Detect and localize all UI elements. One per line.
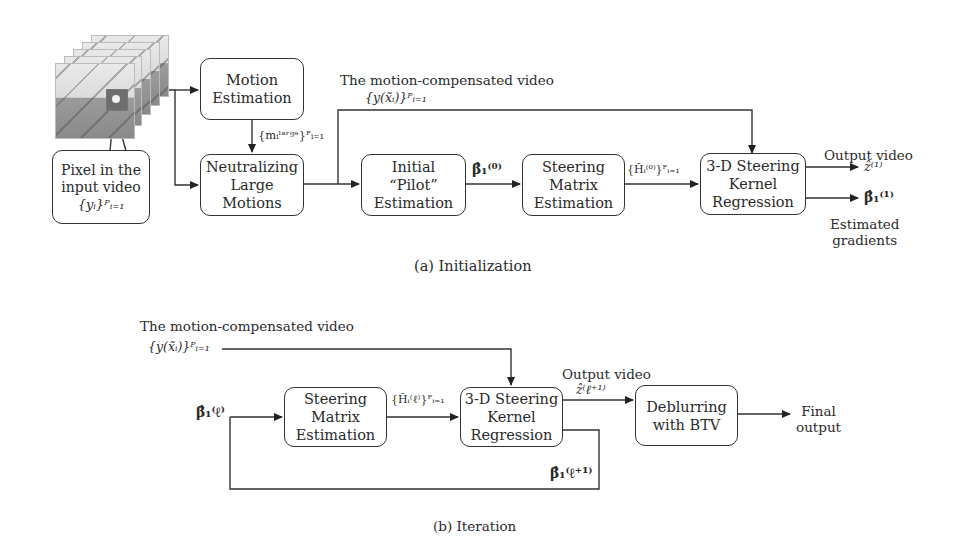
label-line: Estimated bbox=[830, 216, 899, 232]
block-label: Steering bbox=[304, 390, 367, 408]
motion-compensated-math: {y(x̃ᵢ)}ᴾᵢ₌₁ bbox=[365, 91, 427, 105]
block-label: Initial bbox=[392, 158, 435, 176]
label-line: Final bbox=[796, 403, 841, 419]
block-label: Kernel bbox=[729, 175, 778, 193]
block-label: with BTV bbox=[653, 416, 721, 434]
caption-iteration: (b) Iteration bbox=[433, 518, 516, 534]
block-label: Deblurring bbox=[646, 398, 727, 416]
block-label: Regression bbox=[471, 426, 553, 444]
block-label: Estimation bbox=[374, 194, 453, 212]
block-label: “Pilot” bbox=[389, 176, 437, 194]
beta-l-label: β̂₁⁽ℓ⁾ bbox=[196, 405, 225, 419]
callout-line: input video bbox=[53, 179, 149, 196]
steering-matrices-0-label: {H̃ᵢ⁽⁰⁾}ᴾᵢ₌₁ bbox=[627, 163, 680, 177]
callout-line: Pixel in the bbox=[53, 162, 149, 179]
block-label: Steering bbox=[542, 158, 605, 176]
beta-l1-label: β̂₁⁽ℓ⁺¹⁾ bbox=[550, 466, 593, 480]
block-label: Motion bbox=[226, 71, 278, 89]
block-label: Matrix bbox=[549, 176, 598, 194]
block-label: Motions bbox=[222, 194, 282, 212]
steering-matrices-l-label: {H̃ᵢ⁽ℓ⁾}ᴾᵢ₌₁ bbox=[391, 393, 445, 407]
z-1-label: ẑ⁽¹⁾ bbox=[864, 160, 882, 174]
block-label: Regression bbox=[712, 193, 794, 211]
block-label: 3-D Steering bbox=[706, 157, 799, 175]
block-label: Estimation bbox=[534, 194, 613, 212]
block-label: Estimation bbox=[212, 89, 291, 107]
block-label: Kernel bbox=[487, 408, 536, 426]
block-label: Neutralizing bbox=[206, 158, 298, 176]
neutralizing-large-motions-block: Neutralizing Large Motions bbox=[200, 154, 304, 216]
block-label: 3-D Steering bbox=[465, 390, 558, 408]
steering-matrix-estimation-block-b: Steering Matrix Estimation bbox=[284, 387, 387, 447]
steering-matrix-estimation-block: Steering Matrix Estimation bbox=[522, 154, 625, 216]
estimated-gradients-label: Estimated gradients bbox=[830, 216, 899, 248]
motion-estimation-block: Motion Estimation bbox=[200, 58, 304, 120]
block-label: Large bbox=[230, 176, 273, 194]
pixel-dot-icon bbox=[112, 95, 120, 103]
deblurring-btv-block: Deblurring with BTV bbox=[635, 385, 738, 446]
beta-0-label: β̂₁⁽⁰⁾ bbox=[472, 162, 502, 176]
block-label: Estimation bbox=[296, 426, 375, 444]
kernel-regression-block: 3-D Steering Kernel Regression bbox=[700, 153, 806, 215]
input-pixel-callout: Pixel in the input video {yᵢ}ᴾᵢ₌₁ bbox=[52, 150, 150, 224]
z-l1-label: ẑ⁽ℓ⁺¹⁾ bbox=[576, 383, 606, 397]
caption-initialization: (a) Initialization bbox=[414, 258, 531, 274]
label-line: output bbox=[796, 419, 841, 435]
motion-compensated-label-b: The motion-compensated video bbox=[140, 318, 354, 334]
motion-compensated-label: The motion-compensated video bbox=[340, 72, 554, 88]
block-label: Matrix bbox=[311, 408, 360, 426]
motion-compensated-math-b: {y(x̃ᵢ)}ᴾᵢ₌₁ bbox=[148, 340, 210, 354]
label-line: gradients bbox=[830, 232, 899, 248]
initial-pilot-estimation-block: Initial “Pilot” Estimation bbox=[361, 154, 466, 216]
callout-math: {yᵢ}ᴾᵢ₌₁ bbox=[53, 196, 149, 213]
large-motion-vectors-math: {mᵢˡᵃʳᵍᵉ}ᴾᵢ₌₁ bbox=[258, 128, 324, 142]
beta-1-label: β̂₁⁽¹⁾ bbox=[864, 190, 894, 204]
output-video-label-b: Output video bbox=[562, 366, 651, 382]
final-output-label: Final output bbox=[796, 403, 841, 435]
kernel-regression-block-b: 3-D Steering Kernel Regression bbox=[460, 387, 563, 447]
